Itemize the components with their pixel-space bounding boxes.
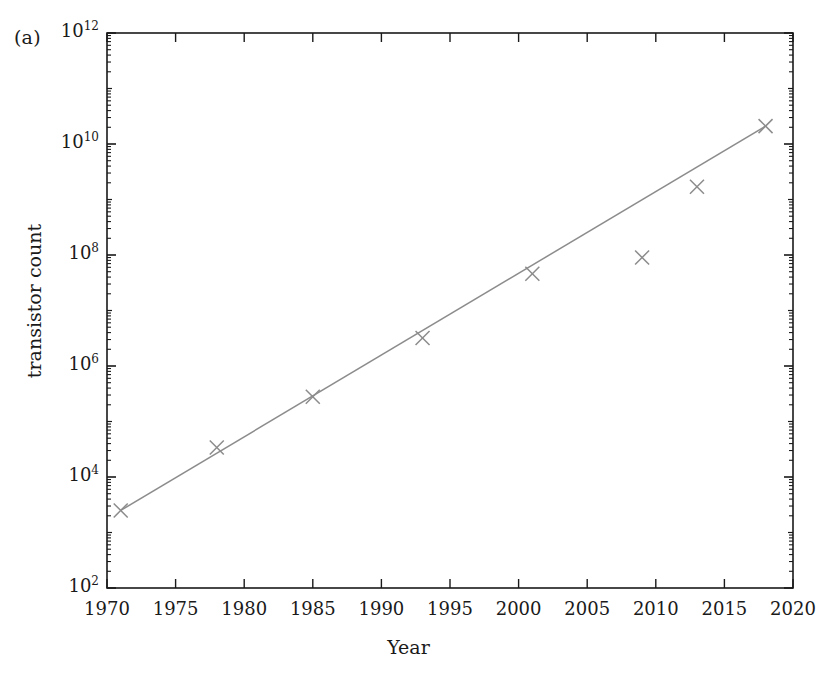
y-tick-label: 1010 [61,133,99,151]
axes-frame [107,33,793,588]
y-tick-label: 102 [68,577,99,595]
data-point-marker [416,331,430,345]
plot-canvas [0,0,817,683]
data-point-marker [690,180,704,194]
data-point-marker [306,390,320,404]
data-point-marker [635,251,649,265]
axis-ticks [107,33,793,588]
y-tick-label: 108 [68,244,99,262]
data-point-marker [114,503,128,517]
data-point-marker [525,267,539,281]
figure-panel-a: (a) transistor count Year 10210410610810… [0,0,817,683]
fit-line [121,126,766,510]
y-tick-label: 1012 [61,22,99,40]
y-tick-label: 106 [68,355,99,373]
data-point-marker [759,119,773,133]
y-tick-label: 104 [68,466,99,484]
x-tick-label: 2020 [753,600,817,618]
